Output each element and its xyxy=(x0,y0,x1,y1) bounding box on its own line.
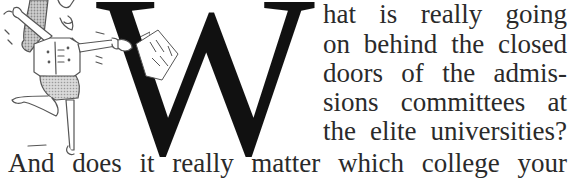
word: which xyxy=(338,149,404,178)
word: hat xyxy=(323,0,356,29)
word: really xyxy=(421,0,482,29)
word: closed xyxy=(498,30,567,59)
word: elite xyxy=(370,117,416,146)
word: behind xyxy=(364,30,438,59)
word: the xyxy=(442,59,475,88)
word: it xyxy=(139,149,154,178)
text-line-4: sions committees at xyxy=(323,88,567,117)
word: your xyxy=(517,149,567,178)
word: going xyxy=(505,0,567,29)
word: at xyxy=(548,88,568,117)
word: does xyxy=(72,149,122,178)
word: the xyxy=(323,117,356,146)
text-line-1: hat is really going xyxy=(323,0,567,29)
word: really xyxy=(172,149,233,178)
word: of xyxy=(401,59,424,88)
word: universities? xyxy=(431,117,567,146)
word: sions xyxy=(323,88,379,117)
word: the xyxy=(451,30,484,59)
text-line-5: the elite universities? xyxy=(323,117,567,146)
text-line-6: And does it really matter which college … xyxy=(8,149,567,178)
word: admis- xyxy=(493,59,567,88)
word: college xyxy=(422,149,500,178)
word: matter xyxy=(251,149,320,178)
word: doors xyxy=(323,59,383,88)
book-page: W hat is really going on behind the clos… xyxy=(0,0,569,188)
word: And xyxy=(8,149,55,178)
text-line-2: on behind the closed xyxy=(323,30,567,59)
word: committees xyxy=(401,88,525,117)
word: is xyxy=(379,0,397,29)
text-line-3: doors of the admis- xyxy=(323,59,567,88)
word: on xyxy=(323,30,350,59)
